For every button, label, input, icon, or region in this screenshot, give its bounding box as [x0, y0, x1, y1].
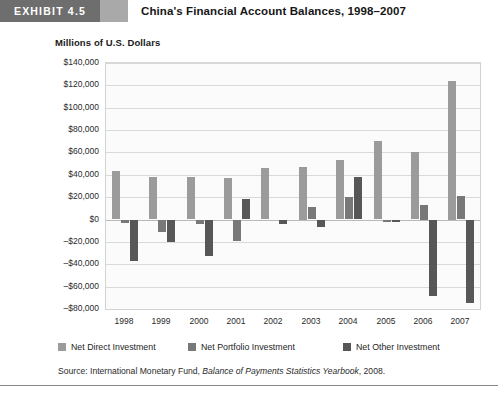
- y-axis-tick-label: –$20,000: [64, 236, 99, 246]
- bar: [448, 81, 456, 220]
- bar: [308, 207, 316, 219]
- footer-divider: [0, 385, 498, 386]
- bar: [158, 220, 166, 232]
- chart-units-label: Millions of U.S. Dollars: [55, 37, 160, 48]
- x-axis-tick-label: 2001: [227, 316, 246, 326]
- bar: [121, 220, 129, 223]
- source-prefix: Source: International Monetary Fund,: [58, 366, 202, 376]
- bar: [336, 160, 344, 219]
- source-suffix: , 2008.: [359, 366, 385, 376]
- y-axis-tick-label: $140,000: [64, 57, 99, 67]
- bar: [299, 167, 307, 220]
- square-swatch-icon: [58, 343, 66, 351]
- bar: [317, 220, 325, 227]
- bar: [130, 220, 138, 261]
- bar: [187, 177, 195, 219]
- gridline: [106, 264, 480, 265]
- bar: [466, 220, 474, 303]
- square-swatch-icon: [188, 343, 196, 351]
- x-axis-labels: 1998199920002001200220032004200520062007: [105, 316, 485, 332]
- y-axis-tick-label: $80,000: [68, 124, 99, 134]
- legend-item: Net Direct Investment: [58, 342, 156, 352]
- y-axis-tick-label: –$80,000: [64, 303, 99, 313]
- gridline: [106, 287, 480, 288]
- y-axis-tick-label: –$40,000: [64, 258, 99, 268]
- bar: [374, 141, 382, 219]
- exhibit-badge-tail: [100, 0, 128, 22]
- gridline: [106, 242, 480, 243]
- bar: [279, 220, 287, 224]
- x-axis-tick-label: 2002: [264, 316, 283, 326]
- x-axis-tick-label: 2004: [339, 316, 358, 326]
- bar: [167, 220, 175, 242]
- exhibit-header: EXHIBIT 4.5 China's Financial Account Ba…: [0, 0, 498, 22]
- y-axis-tick-label: $100,000: [64, 102, 99, 112]
- y-axis-tick-label: $40,000: [68, 169, 99, 179]
- bar: [112, 171, 120, 219]
- bar: [224, 178, 232, 219]
- legend-item-label: Net Other Investment: [356, 342, 440, 352]
- legend-item: Net Other Investment: [343, 342, 440, 352]
- legend-item-label: Net Direct Investment: [71, 342, 156, 352]
- y-axis-tick-label: $0: [90, 214, 99, 224]
- source-note: Source: International Monetary Fund, Bal…: [58, 366, 385, 376]
- gridline: [106, 309, 480, 310]
- bar: [420, 205, 428, 220]
- x-axis-tick-label: 2000: [190, 316, 209, 326]
- y-axis-tick-label: $120,000: [64, 79, 99, 89]
- x-axis-tick-label: 1998: [115, 316, 134, 326]
- bar: [242, 199, 250, 219]
- gridline: [106, 108, 480, 109]
- gridline: [106, 152, 480, 153]
- bar: [261, 168, 269, 219]
- x-axis-tick-label: 1999: [152, 316, 171, 326]
- legend-item: Net Portfolio Investment: [188, 342, 295, 352]
- bar: [345, 197, 353, 219]
- gridline: [106, 130, 480, 131]
- plot-area: [105, 62, 481, 310]
- x-axis-tick-label: 2003: [302, 316, 321, 326]
- exhibit-badge: EXHIBIT 4.5: [0, 0, 100, 22]
- bar: [429, 220, 437, 296]
- bar-chart: $140,000$120,000$100,000$80,000$60,000$4…: [45, 58, 485, 316]
- legend-item-label: Net Portfolio Investment: [201, 342, 295, 352]
- x-axis-tick-label: 2007: [451, 316, 470, 326]
- y-axis-labels: $140,000$120,000$100,000$80,000$60,000$4…: [45, 58, 103, 316]
- x-axis-tick-label: 2006: [414, 316, 433, 326]
- bar: [149, 177, 157, 219]
- bar: [392, 220, 400, 222]
- y-axis-tick-label: $60,000: [68, 146, 99, 156]
- bar: [383, 220, 391, 222]
- bar: [457, 196, 465, 219]
- bar: [196, 220, 204, 224]
- bar: [233, 220, 241, 241]
- square-swatch-icon: [343, 343, 351, 351]
- bar: [411, 152, 419, 219]
- bar: [205, 220, 213, 256]
- chart-legend: Net Direct InvestmentNet Portfolio Inves…: [58, 342, 478, 356]
- source-publication: Balance of Payments Statistics Yearbook: [202, 366, 359, 376]
- bar: [354, 177, 362, 219]
- gridline: [106, 175, 480, 176]
- y-axis-tick-label: $20,000: [68, 191, 99, 201]
- gridline: [106, 63, 480, 64]
- gridline: [106, 197, 480, 198]
- y-axis-tick-label: –$60,000: [64, 281, 99, 291]
- gridline: [106, 85, 480, 86]
- exhibit-title: China's Financial Account Balances, 1998…: [128, 0, 498, 22]
- x-axis-tick-label: 2005: [377, 316, 396, 326]
